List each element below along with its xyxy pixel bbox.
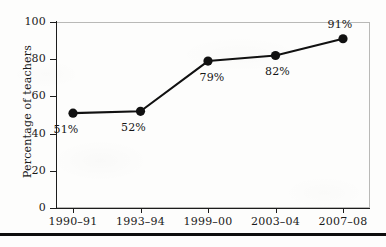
data-point-4 [338, 34, 347, 43]
data-point-2 [203, 56, 212, 65]
data-point-0 [68, 109, 77, 118]
data-point-label-3: 82% [243, 65, 313, 78]
data-point-label-4: 91% [305, 18, 375, 31]
chart-figure: Percentage of teachers 020406080100 1990… [0, 0, 386, 247]
data-point-label-0: 51% [31, 123, 101, 136]
data-point-1 [136, 107, 145, 116]
data-point-label-1: 52% [99, 121, 169, 134]
data-point-label-2: 79% [177, 71, 247, 84]
bottom-divider-rule [0, 233, 386, 236]
data-point-3 [271, 51, 280, 60]
